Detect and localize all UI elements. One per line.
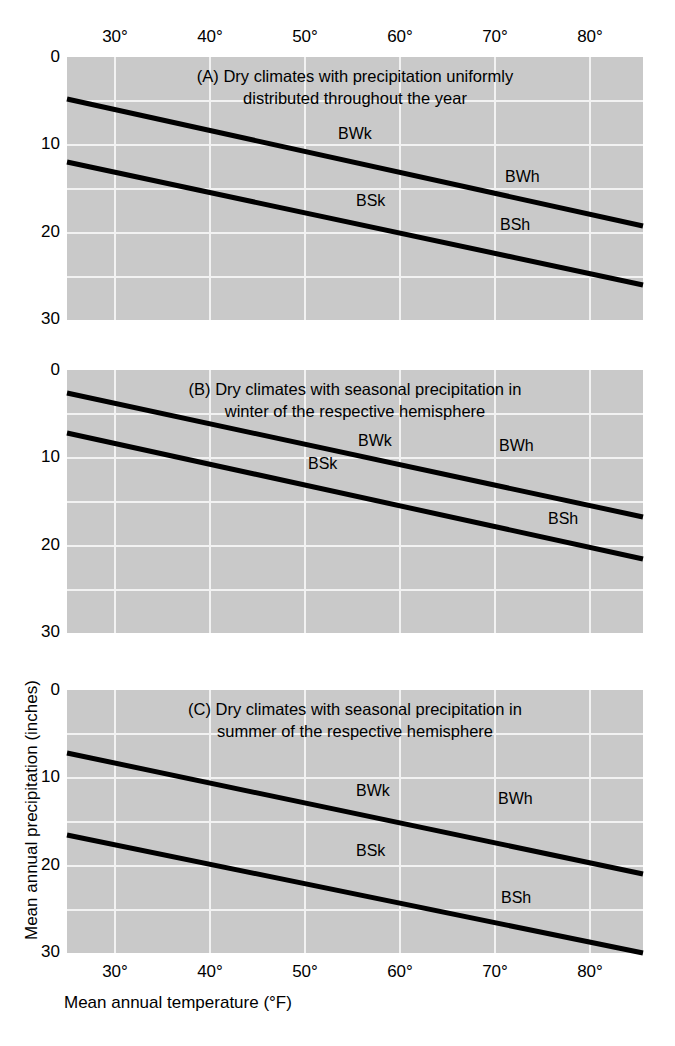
panel-c-label-bsk: BSk — [356, 842, 385, 860]
panel-c-label-bwh: BWh — [498, 790, 533, 808]
panel-a-label-bsk: BSk — [356, 192, 385, 210]
x-tick-bottom-80: 80° — [560, 962, 620, 982]
x-axis-title: Mean annual temperature (°F) — [64, 993, 292, 1013]
panel-c-title: (C) Dry climates with seasonal precipita… — [95, 699, 615, 743]
panel-c-label-bsh: BSh — [501, 889, 531, 907]
panel-b-label-bsk: BSk — [308, 455, 337, 473]
panel-a-label-bsh: BSh — [500, 216, 530, 234]
panel-b-y-tick-20: 20 — [14, 535, 60, 555]
panel-b-y-tick-10: 10 — [14, 447, 60, 467]
panel-b-label-bsh: BSh — [548, 510, 578, 528]
panel-a-title: (A) Dry climates with precipitation unif… — [95, 66, 615, 110]
panel-c-title-line1: (C) Dry climates with seasonal precipita… — [188, 700, 522, 718]
x-tick-top-60: 60° — [370, 27, 430, 47]
panel-c-plot-area: (C) Dry climates with seasonal precipita… — [67, 690, 643, 953]
panel-b-y-tick-0: 0 — [14, 360, 60, 380]
x-tick-bottom-40: 40° — [180, 962, 240, 982]
panel-b-plot-area: (B) Dry climates with seasonal precipita… — [67, 370, 643, 633]
x-tick-top-80: 80° — [560, 27, 620, 47]
panel-c-title-line2: summer of the respective hemisphere — [217, 722, 493, 740]
y-axis-title: Mean annual precipitation (inches) — [22, 680, 42, 940]
x-tick-top-30: 30° — [85, 27, 145, 47]
x-tick-bottom-60: 60° — [370, 962, 430, 982]
panel-a-y-tick-20: 20 — [14, 222, 60, 242]
panel-a-y-tick-30: 30 — [14, 309, 60, 329]
panel-a-title-line2: distributed throughout the year — [243, 89, 467, 107]
panel-a-y-tick-0: 0 — [14, 47, 60, 67]
panel-a-title-line1: (A) Dry climates with precipitation unif… — [197, 67, 513, 85]
panel-a-label-bwk: BWk — [338, 125, 372, 143]
x-tick-top-70: 70° — [465, 27, 525, 47]
x-tick-top-40: 40° — [180, 27, 240, 47]
panel-a-plot-area: (A) Dry climates with precipitation unif… — [67, 57, 643, 320]
panel-a-label-bwh: BWh — [505, 168, 540, 186]
panel-b-title-line1: (B) Dry climates with seasonal precipita… — [189, 380, 522, 398]
x-tick-bottom-50: 50° — [275, 962, 335, 982]
panel-b-label-bwh: BWh — [499, 437, 534, 455]
panel-c-y-tick-30: 30 — [14, 942, 60, 962]
panel-b-y-tick-30: 30 — [14, 622, 60, 642]
panel-b-title-line2: winter of the respective hemisphere — [225, 402, 485, 420]
x-tick-bottom-30: 30° — [85, 962, 145, 982]
panel-a-y-tick-10: 10 — [14, 134, 60, 154]
panel-b-label-bwk: BWk — [358, 432, 392, 450]
panel-c-label-bwk: BWk — [356, 782, 390, 800]
x-tick-top-50: 50° — [275, 27, 335, 47]
dry-climates-figure: 30° 40° 50° 60° 70° 80° (A) Dry climates… — [0, 0, 675, 1046]
x-tick-bottom-70: 70° — [465, 962, 525, 982]
panel-b-title: (B) Dry climates with seasonal precipita… — [95, 379, 615, 423]
